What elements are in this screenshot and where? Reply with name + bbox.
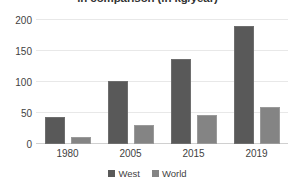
y-axis-label: 50	[21, 108, 32, 119]
chart-title: in comparison (in kg/year)	[0, 0, 295, 4]
bar-group	[225, 20, 288, 144]
bar-world-2005	[134, 125, 154, 144]
bar-world-2015	[197, 115, 217, 144]
legend-label: World	[162, 168, 187, 179]
bar-west-1980	[45, 117, 65, 144]
y-axis-tick-labels: 050100150200	[0, 20, 32, 144]
legend-item-west[interactable]: West	[108, 168, 139, 179]
y-axis-label: 0	[26, 139, 32, 150]
bar-group	[99, 20, 162, 144]
bar-west-2005	[108, 81, 128, 144]
y-axis-label: 200	[15, 15, 32, 26]
bar-group	[36, 20, 99, 144]
bar-groups	[36, 20, 288, 144]
bar-west-2019	[234, 26, 254, 144]
y-axis-label: 100	[15, 77, 32, 88]
chart-legend: WestWorld	[0, 168, 295, 179]
x-axis-label: 2015	[162, 148, 225, 159]
bar-chart: in comparison (in kg/year) 050100150200 …	[0, 0, 295, 185]
legend-swatch-icon	[108, 170, 115, 177]
legend-label: West	[118, 168, 139, 179]
x-axis-label: 2019	[225, 148, 288, 159]
x-axis-label: 2005	[99, 148, 162, 159]
bar-group	[162, 20, 225, 144]
bar-world-1980	[71, 137, 91, 144]
legend-item-world[interactable]: World	[152, 168, 187, 179]
bar-world-2019	[260, 107, 280, 144]
legend-swatch-icon	[152, 170, 159, 177]
x-axis-label: 1980	[36, 148, 99, 159]
bar-west-2015	[171, 59, 191, 144]
x-axis-tick-labels: 1980200520152019	[36, 148, 288, 159]
plot-area	[36, 20, 288, 144]
y-axis-label: 150	[15, 46, 32, 57]
